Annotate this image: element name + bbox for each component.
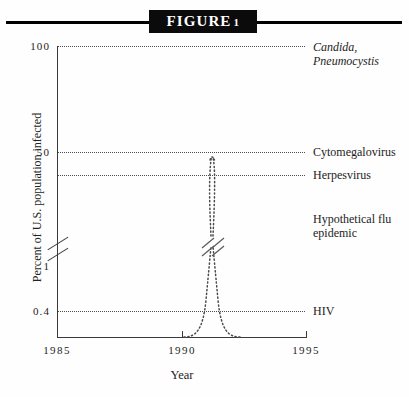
reference-line-candida xyxy=(58,46,305,47)
series-label-candida: Candida, Pneumocystis xyxy=(313,40,379,68)
reference-line-hiv xyxy=(58,311,305,312)
y-tick-label-100: 100 xyxy=(0,40,50,52)
x-tick-label-1995: 1995 xyxy=(276,344,336,356)
chart-plot-area: 100 50 1 0.4 1985 1990 1995 Percent of U… xyxy=(0,0,409,397)
x-tick-label-1985: 1985 xyxy=(27,344,87,356)
reference-line-cytomegalovirus xyxy=(58,152,305,153)
x-tick-1985 xyxy=(57,331,58,338)
series-label-cytomegalovirus: Cytomegalovirus xyxy=(313,145,396,159)
x-tick-1995 xyxy=(306,331,307,338)
series-label-candida-line2: Pneumocystis xyxy=(313,54,379,68)
y-axis-title: Percent of U.S. population infected xyxy=(30,83,45,313)
series-label-flu-line1: Hypothetical flu xyxy=(313,212,391,226)
x-tick-1990 xyxy=(182,331,183,338)
x-axis-title: Year xyxy=(57,368,307,383)
series-label-flu-line2: epidemic xyxy=(313,226,391,240)
figure-page: FIGURE1 100 50 1 0.4 1985 1990 1995 Perc… xyxy=(0,0,409,397)
series-label-flu-epidemic: Hypothetical flu epidemic xyxy=(313,212,391,240)
series-label-hiv: HIV xyxy=(313,304,334,318)
series-label-candida-line1: Candida, xyxy=(313,40,379,54)
reference-line-herpesvirus xyxy=(58,175,305,176)
series-label-herpesvirus: Herpesvirus xyxy=(313,168,371,182)
x-tick-label-1990: 1990 xyxy=(152,344,212,356)
y-axis-line xyxy=(57,46,58,338)
